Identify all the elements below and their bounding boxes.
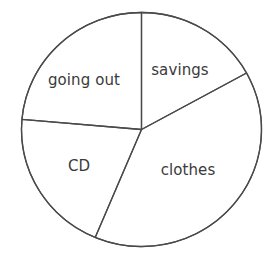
pie-chart-figure: savings clothes CD going out [0, 0, 276, 259]
pie-label-savings: savings [151, 63, 209, 78]
pie-label-going-out: going out [48, 73, 120, 88]
pie-label-cd: CD [68, 159, 90, 174]
pie-label-clothes: clothes [161, 163, 216, 178]
pie-chart-svg [0, 0, 276, 259]
